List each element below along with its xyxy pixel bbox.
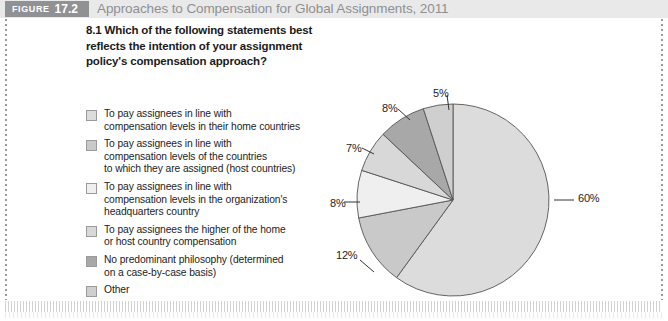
legend-item-label: No predominant philosophy (determined on… xyxy=(104,254,283,279)
legend-swatch-icon xyxy=(86,110,97,121)
survey-question: 8.1 Which of the following statements be… xyxy=(86,23,318,70)
pie-percentage-label: 12% xyxy=(336,249,357,261)
pie-chart-svg xyxy=(322,82,662,297)
figure-title: Approaches to Compensation for Global As… xyxy=(97,0,448,18)
legend-item-label: Other xyxy=(104,284,129,297)
pie-label-leader-line xyxy=(360,260,374,272)
left-dotted-rail xyxy=(5,19,7,300)
legend-swatch-icon xyxy=(86,226,97,237)
figure-word-label: FIGURE xyxy=(12,4,50,14)
figure-container: FIGURE 17.2 Approaches to Compensation f… xyxy=(0,0,668,321)
list-item: Other xyxy=(86,284,326,297)
legend-item-label: To pay assignees in line with compensati… xyxy=(104,108,300,133)
pie-percentage-label: 5% xyxy=(433,87,449,99)
legend-item-label: To pay assignees in line with compensati… xyxy=(104,181,287,219)
list-item: To pay assignees in line with compensati… xyxy=(86,181,326,219)
legend-item-label: To pay assignees in line with compensati… xyxy=(104,138,295,176)
legend-item-label: To pay assignees the higher of the home … xyxy=(104,224,286,249)
legend-swatch-icon xyxy=(86,286,97,297)
pie-percentage-label: 7% xyxy=(346,142,362,154)
list-item: To pay assignees in line with compensati… xyxy=(86,108,326,133)
list-item: To pay assignees in line with compensati… xyxy=(86,138,326,176)
footer-hatch-strip-secondary xyxy=(5,312,662,318)
pie-percentage-label: 8% xyxy=(330,197,346,209)
figure-number-label: 17.2 xyxy=(55,2,78,16)
footer-hatch-strip xyxy=(5,301,662,312)
legend-swatch-icon xyxy=(86,256,97,267)
chart-legend: To pay assignees in line with compensati… xyxy=(86,108,326,302)
pie-percentage-label: 8% xyxy=(382,102,398,114)
pie-percentage-label: 60% xyxy=(578,192,599,204)
figure-tag: FIGURE 17.2 xyxy=(5,1,89,17)
legend-swatch-icon xyxy=(86,140,97,151)
list-item: No predominant philosophy (determined on… xyxy=(86,254,326,279)
list-item: To pay assignees the higher of the home … xyxy=(86,224,326,249)
legend-swatch-icon xyxy=(86,183,97,194)
pie-chart: 60%12%8%7%8%5% xyxy=(322,82,662,297)
